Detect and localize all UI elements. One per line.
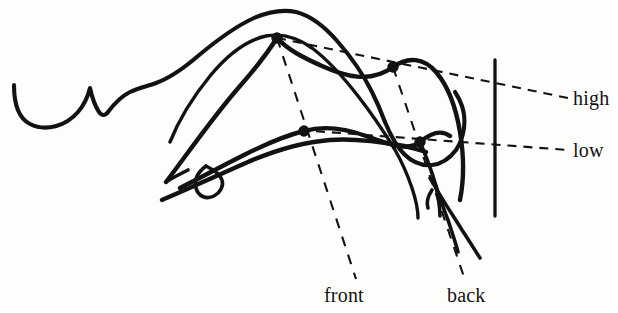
tongue-contour-high-vowel	[166, 38, 463, 200]
dot-high-back	[388, 62, 398, 72]
label-low: low	[573, 140, 604, 160]
dot-low-front	[299, 126, 309, 136]
vocal-tract-drawing	[0, 0, 618, 313]
dimension-lines-group	[277, 38, 568, 279]
vowel-articulation-figure: high low front back	[0, 0, 618, 313]
dot-high-front	[272, 33, 282, 43]
label-back: back	[447, 285, 486, 305]
label-high: high	[573, 88, 609, 108]
high-dimension-line	[277, 38, 568, 98]
dot-low-back	[415, 137, 425, 147]
epiglottis-stroke	[427, 190, 432, 208]
label-front: front	[324, 285, 364, 305]
tongue-root-group	[420, 142, 480, 258]
tongue-contours-group	[162, 38, 463, 200]
